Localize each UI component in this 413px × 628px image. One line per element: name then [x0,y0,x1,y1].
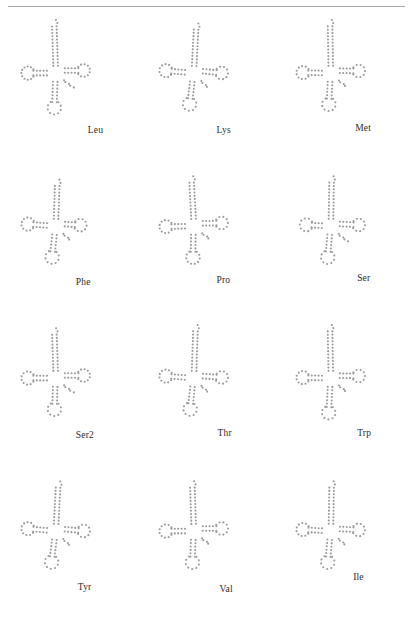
nucleotide-dot [69,390,71,392]
nucleotide-dot [187,555,189,557]
nucleotide-dot [356,381,358,383]
nucleotide-dot [197,563,199,565]
nucleotide-dot [331,84,333,86]
nucleotide-dot [333,184,335,186]
nucleotide-dot [23,78,25,80]
nucleotide-dot [332,65,334,67]
panel-label-thr: Thr [217,429,231,439]
nucleotide-dot [52,65,54,67]
nucleotide-dot [301,535,303,537]
cloverleaf-diagram [275,319,413,472]
nucleotide-dot [57,559,59,561]
nucleotide-dot [60,410,62,412]
nucleotide-dot [311,374,313,376]
nucleotide-dot [307,532,309,534]
nucleotide-dot [218,382,220,384]
nucleotide-dot [64,225,66,227]
nucleotide-dot [227,527,229,529]
nucleotide-dot [201,220,203,222]
nucleotide-dot [36,226,38,228]
nucleotide-dot [184,69,186,71]
nucleotide-dot [173,73,175,75]
nucleotide-dot [206,235,208,237]
nucleotide-dot [190,217,192,219]
nucleotide-dot [208,219,210,221]
nucleotide-dot [36,221,38,223]
nucleotide-dot [71,526,73,528]
nucleotide-dot [51,39,53,41]
nucleotide-dot [301,65,303,67]
nucleotide-dot [29,229,31,231]
nucleotide-dot [332,38,334,40]
nucleotide-dot [177,68,179,70]
nucleotide-dot [174,373,176,375]
nucleotide-dot [33,219,35,221]
nucleotide-dot [334,414,336,416]
nucleotide-dot [188,84,190,86]
nucleotide-dot [170,74,172,76]
nucleotide-dot [332,363,334,365]
nucleotide-dot [59,486,61,488]
nucleotide-dot [77,66,79,68]
nucleotide-dot [58,506,60,508]
nucleotide-dot [192,91,194,93]
nucleotide-dot [67,225,69,227]
nucleotide-dot [77,218,79,220]
nucleotide-dot [339,377,341,379]
panel-label-trp: Trp [357,429,371,439]
nucleotide-dot [53,519,55,521]
nucleotide-dot [173,223,175,225]
nucleotide-dot [200,80,202,82]
nucleotide-dot [56,42,58,44]
nucleotide-dot [54,188,56,190]
nucleotide-dot [215,75,217,77]
nucleotide-dot [167,524,169,526]
nucleotide-dot [192,35,194,37]
nucleotide-dot [196,330,198,332]
panel-label-tyr: Tyr [78,583,92,593]
nucleotide-dot [57,258,59,260]
nucleotide-dot [87,534,89,536]
nucleotide-dot [64,220,66,222]
nucleotide-dot [193,486,195,488]
nucleotide-dot [318,375,320,377]
nucleotide-dot [51,340,53,342]
nucleotide-dot [343,67,345,69]
nucleotide-dot [196,353,198,355]
nucleotide-dot [360,522,362,524]
nucleotide-dot [326,541,328,543]
nucleotide-dot [190,522,192,524]
nucleotide-dot [56,343,58,345]
nucleotide-dot [339,525,341,527]
nucleotide-dot [62,232,64,234]
nucleotide-dot [36,379,38,381]
nucleotide-dot [52,62,54,64]
nucleotide-dot [327,347,329,349]
nucleotide-dot [59,490,61,492]
nucleotide-dot [77,73,79,75]
nucleotide-dot [204,84,206,86]
nucleotide-dot [218,533,220,535]
nucleotide-dot [195,360,197,362]
nucleotide-dot [89,376,91,378]
nucleotide-dot [201,224,203,226]
nucleotide-dot [352,227,354,229]
nucleotide-dot [360,64,362,66]
nucleotide-dot [197,22,199,24]
nucleotide-dot [321,413,323,415]
nucleotide-dot [46,70,48,72]
nucleotide-dot [212,529,214,531]
nucleotide-dot [43,375,45,377]
nucleotide-dot [63,384,65,386]
nucleotide-dot [160,525,162,527]
nucleotide-dot [191,340,193,342]
nucleotide-dot [170,66,172,68]
nucleotide-dot [33,524,35,526]
nucleotide-dot [77,230,79,232]
nucleotide-dot [326,247,328,249]
nucleotide-dot [326,236,328,238]
nucleotide-dot [194,483,196,485]
nucleotide-dot [212,69,214,71]
nucleotide-dot [326,243,328,245]
nucleotide-dot [322,409,324,411]
